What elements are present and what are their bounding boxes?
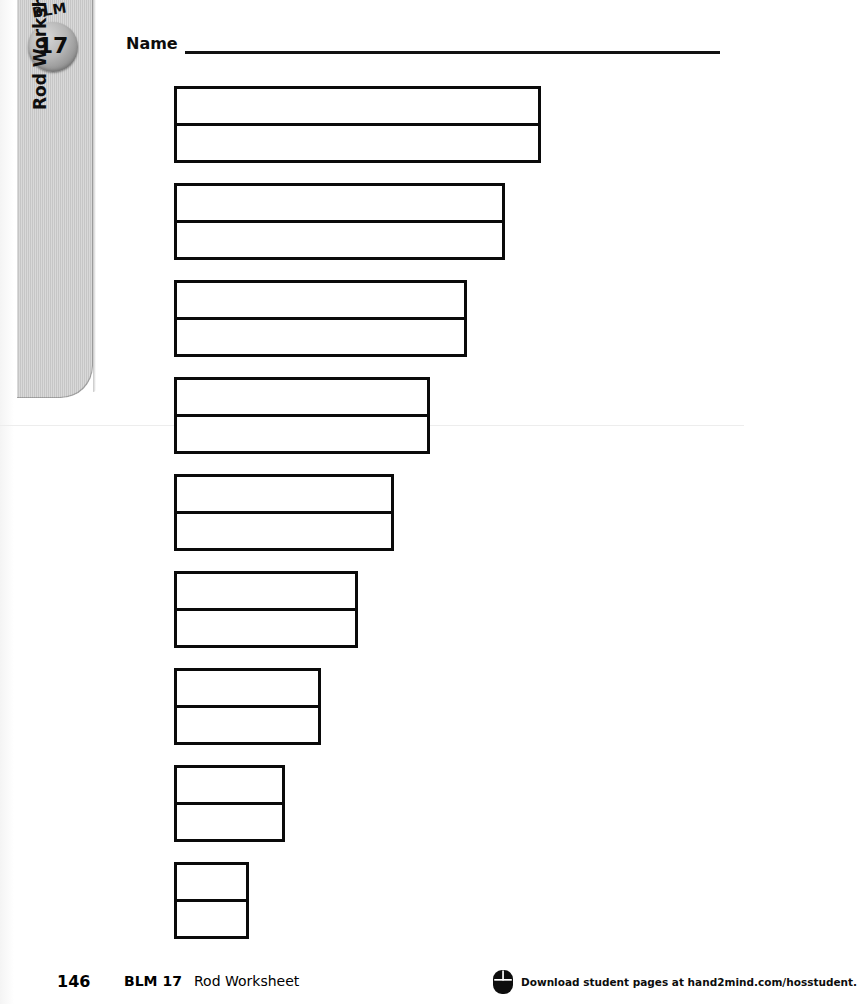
rod-bar[interactable] [174,668,321,745]
footer-page-number: 146 [57,972,90,991]
footer: 146 BLM 17 Rod Worksheet Download studen… [0,966,744,1000]
name-write-line[interactable] [185,51,720,54]
rod-cell[interactable] [174,414,430,454]
rod-cell[interactable] [174,123,541,163]
rod-bar[interactable] [174,474,394,551]
rod-cell[interactable] [174,317,467,357]
rod-cell[interactable] [174,608,358,648]
name-label: Name [126,34,178,53]
rod-cell[interactable] [174,220,505,260]
rod-cell[interactable] [174,668,321,708]
rod-cell[interactable] [174,765,285,805]
rod-cell[interactable] [174,802,285,842]
rod-bar[interactable] [174,377,430,454]
rod-bar[interactable] [174,280,467,357]
page-edge-shadow [0,0,14,1004]
footer-worksheet-title: Rod Worksheet [194,973,299,989]
rod-cell[interactable] [174,183,505,223]
name-field: Name [126,34,726,60]
rod-bar[interactable] [174,571,358,648]
rod-cell[interactable] [174,86,541,126]
rod-cell[interactable] [174,899,249,939]
rod-bar[interactable] [174,862,249,939]
rod-cell[interactable] [174,862,249,902]
rod-cell[interactable] [174,511,394,551]
rod-cell[interactable] [174,474,394,514]
rod-bar[interactable] [174,183,505,260]
rod-bar[interactable] [174,765,285,842]
footer-link-text: Download student pages at hand2mind.com/… [521,976,857,988]
computer-mouse-icon [492,969,514,995]
rod-list [174,86,541,959]
rod-cell[interactable] [174,705,321,745]
footer-download-note[interactable]: Download student pages at hand2mind.com/… [492,968,857,996]
rod-cell[interactable] [174,377,430,417]
side-tab-shadow [93,0,96,392]
rod-cell[interactable] [174,280,467,320]
rod-bar[interactable] [174,86,541,163]
rod-cell[interactable] [174,571,358,611]
footer-blm-code: BLM 17 [124,973,182,989]
side-tab-vertical-title: Rod Worksheet [30,0,50,110]
